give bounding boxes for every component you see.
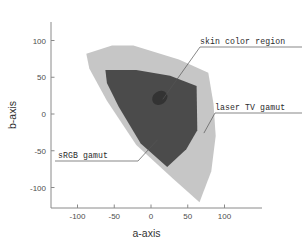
data-regions (86, 46, 215, 203)
y-tick-label: 0 (42, 110, 47, 119)
x-tick-label: -50 (108, 212, 120, 221)
annotation-label: sRGB gamut (58, 151, 108, 160)
y-tick-label: -100 (30, 184, 47, 193)
y-axis-title: b-axis (6, 101, 18, 129)
x-tick-label: 100 (218, 212, 232, 221)
y-axis-ticks (51, 41, 55, 188)
y-tick-label: 100 (33, 37, 47, 46)
x-tick-label: 50 (183, 212, 192, 221)
chart-canvas: -100-50050100 100500-50-100 a-axis b-axi… (0, 0, 303, 250)
x-axis-ticks (78, 205, 225, 209)
annotation-label: skin color region (200, 37, 285, 46)
y-axis-tick-labels: 100500-50-100 (30, 37, 47, 193)
x-axis-title: a-axis (132, 227, 160, 239)
x-axis-tick-labels: -100-50050100 (69, 212, 231, 221)
gamut-chart-figure: -100-50050100 100500-50-100 a-axis b-axi… (0, 0, 303, 250)
annotation-label: laser TV gamut (215, 103, 285, 112)
y-tick-label: -50 (34, 147, 46, 156)
x-tick-label: -100 (69, 212, 86, 221)
y-tick-label: 50 (37, 73, 46, 82)
x-tick-label: 0 (149, 212, 154, 221)
